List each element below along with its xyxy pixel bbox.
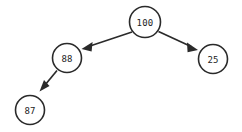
tree-node-left-left[interactable]: 87: [16, 96, 45, 125]
tree-node-right[interactable]: 25: [199, 45, 228, 74]
edge-root-to-right-arrowhead: [187, 43, 198, 53]
edge-root-to-right: [159, 32, 199, 53]
tree-node-left-label: 88: [61, 54, 72, 64]
tree-node-root-label: 100: [137, 18, 154, 28]
edge-root-to-right-line: [159, 32, 192, 47]
edge-root-to-left-arrowhead: [82, 42, 93, 51]
tree-node-left[interactable]: 88: [53, 44, 82, 73]
edge-root-to-left-line: [89, 32, 133, 47]
edge-left-to-left-left-line: [45, 71, 57, 86]
binary-tree-diagram: 100 88 25 87: [0, 0, 242, 132]
tree-node-right-label: 25: [207, 55, 218, 65]
edge-root-to-left: [82, 32, 133, 51]
tree-node-root[interactable]: 100: [130, 7, 161, 38]
diagram-canvas: 100 88 25 87: [0, 0, 242, 132]
tree-node-left-left-label: 87: [24, 106, 35, 116]
edge-left-to-left-left: [40, 71, 58, 92]
